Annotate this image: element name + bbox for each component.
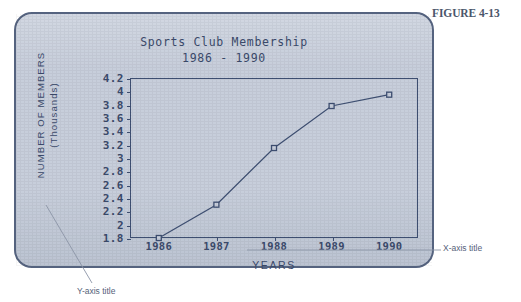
- series-line: [159, 95, 389, 238]
- y-axis-title-callout: Y-axis title: [77, 286, 115, 296]
- data-point-marker: [156, 236, 161, 241]
- data-point-marker: [214, 202, 219, 207]
- y-axis-tick-label: 2.6: [103, 178, 124, 191]
- chart-title: Sports Club Membership: [16, 35, 432, 49]
- x-axis-tick-label: 1989: [318, 240, 345, 252]
- x-axis-tick-label: 1987: [203, 240, 230, 252]
- x-axis-tick-label: 1986: [146, 240, 173, 252]
- y-axis-tick-label: 3: [117, 152, 124, 165]
- y-axis-title-line1: NUMBER OF MEMBERS: [34, 40, 47, 190]
- data-point-marker: [329, 104, 334, 109]
- y-axis-tick-label: 3.8: [103, 98, 124, 111]
- x-axis-title-callout: X-axis title: [443, 243, 482, 253]
- figure-caption: FIGURE 4-13: [432, 7, 500, 19]
- y-axis-tick-label: 2.4: [103, 192, 124, 205]
- chart-subtitle: 1986 - 1990: [16, 51, 432, 65]
- y-axis-tick-label: 1.8: [103, 232, 124, 245]
- series-layer: [130, 78, 418, 238]
- chart-panel: Sports Club Membership 1986 - 1990 1.822…: [14, 12, 434, 268]
- data-point-marker: [272, 146, 277, 151]
- x-axis-tick-labels: 19861987198819891990: [130, 238, 418, 256]
- data-point-marker: [387, 92, 392, 97]
- x-axis-title: YEARS: [130, 259, 418, 271]
- y-axis-tick-label: 3.2: [103, 138, 124, 151]
- y-axis-tick-label: 3.6: [103, 112, 124, 125]
- y-axis-tick-label: 2: [117, 218, 124, 231]
- y-axis-tick-label: 3.4: [103, 125, 124, 138]
- y-axis-tick-label: 4.2: [103, 72, 124, 85]
- y-axis-tick-label: 2.2: [103, 205, 124, 218]
- x-axis-tick-label: 1990: [376, 240, 403, 252]
- y-axis-title: NUMBER OF MEMBERS (Thousands): [34, 40, 60, 190]
- x-axis-tick-label: 1988: [261, 240, 288, 252]
- y-axis-tick-label: 2.8: [103, 165, 124, 178]
- y-axis-tick-label: 4: [117, 85, 124, 98]
- y-axis-title-line2: (Thousands): [47, 40, 60, 190]
